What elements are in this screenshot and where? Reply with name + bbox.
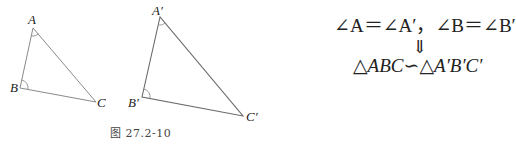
triangle-abc (20, 28, 96, 102)
vertex-label-a-prime: A′ (152, 4, 163, 17)
formula-conclusion: △ABC∽△A′B′C′ (353, 54, 482, 77)
vertex-label-c: C (97, 96, 106, 109)
angle-mark-a-prime (158, 23, 165, 25)
figure-caption: 图 27.2-10 (110, 124, 171, 140)
vertex-label-b: B (10, 81, 18, 94)
vertex-label-c-prime: C′ (246, 110, 258, 123)
vertex-label-a: A (28, 13, 36, 26)
angle-mark-a (31, 34, 38, 36)
triangle-a-prime-b-prime-c-prime (142, 17, 243, 116)
formula-condition: ∠A＝∠A′，∠B＝∠B′ (334, 10, 516, 37)
vertex-label-b-prime: B′ (128, 96, 139, 109)
